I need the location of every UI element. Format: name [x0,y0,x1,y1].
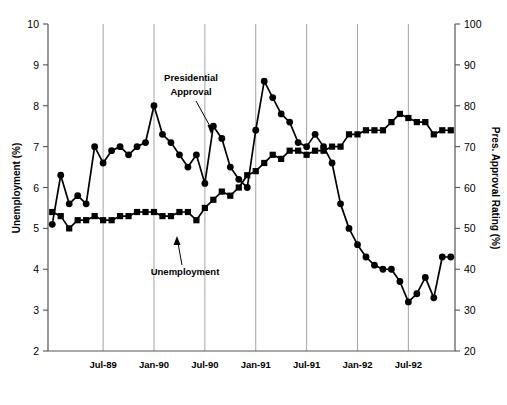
data-point-marker [227,164,234,171]
axis-title-right: Pres. Approval Rating (%) [490,127,501,249]
data-point-marker [363,127,369,133]
data-point-marker [253,168,259,174]
data-point-marker [49,221,56,228]
y2-tick-label: 20 [464,345,476,357]
data-point-marker [270,152,276,158]
data-point-marker [91,143,98,150]
data-point-marker [108,147,115,154]
data-point-marker [193,151,200,158]
x-tick-label: Jan-92 [342,359,372,370]
data-point-marker [371,262,378,269]
data-point-marker [448,127,454,133]
x-tick-label: Jul-90 [191,359,218,370]
data-point-marker [210,197,216,203]
data-point-marker [287,148,293,154]
data-point-marker [269,94,276,101]
annotation-unemployment-label: Unemployment [151,266,220,277]
y2-tick-label: 80 [464,100,476,112]
y2-tick-label: 50 [464,222,476,234]
x-tick-label: Jan-91 [241,359,272,370]
data-point-marker [58,213,64,219]
data-point-marker [57,172,64,179]
data-point-marker [236,184,242,190]
data-point-marker [371,127,377,133]
data-point-marker [380,266,387,273]
y2-tick-label: 40 [464,263,476,275]
data-point-marker [108,217,114,223]
y2-tick-label: 70 [464,141,476,153]
data-point-marker [134,209,140,215]
axis-title-left: Unemployment (%) [11,143,22,234]
data-point-marker [422,274,429,281]
y2-tick-label: 60 [464,182,476,194]
data-point-marker [117,143,124,150]
data-point-marker [354,241,361,248]
x-tick-label: Jan-90 [139,359,169,370]
data-point-marker [134,143,141,150]
data-point-marker [185,164,192,171]
x-axis-ticks: Jul-89Jan-90Jul-90Jan-91Jul-91Jan-92Jul-… [89,359,422,370]
data-point-marker [142,139,149,146]
data-point-marker [92,213,98,219]
data-point-marker [176,209,182,215]
chart-container: 2345678910 2030405060708090100 Jul-89Jan… [0,0,507,405]
y-tick-label: 10 [27,18,39,30]
data-point-marker [66,225,72,231]
data-point-marker [125,213,131,219]
data-point-marker [117,213,123,219]
data-point-marker [75,217,81,223]
data-point-marker [142,209,148,215]
data-point-marker [176,151,183,158]
data-point-marker [312,131,319,138]
data-point-marker [346,131,352,137]
data-point-marker [261,78,268,85]
data-point-marker [431,131,437,137]
data-point-marker [439,127,445,133]
data-point-marker [388,266,395,273]
data-point-marker [295,148,301,154]
data-point-marker [244,184,251,191]
data-point-marker [430,294,437,301]
data-point-marker [414,119,420,125]
data-point-marker [413,290,420,297]
y2-tick-label: 100 [464,18,482,30]
data-point-marker [320,143,327,150]
data-point-marker [337,144,343,150]
data-point-marker [388,119,394,125]
y-axis-ticks-right: 2030405060708090100 [455,18,482,357]
data-point-marker [447,254,454,261]
data-point-marker [396,278,403,285]
data-point-marker [252,127,259,134]
data-point-marker [201,180,208,187]
data-point-marker [303,143,310,150]
data-point-marker [261,160,267,166]
data-point-marker [151,102,158,109]
y2-tick-label: 30 [464,304,476,316]
y-axis-ticks-left: 2345678910 [27,18,48,357]
data-point-marker [286,119,293,126]
data-point-marker [380,127,386,133]
data-point-marker [227,193,233,199]
data-point-marker [405,299,412,306]
left-axis-title-text: Unemployment (%) [11,143,22,234]
data-point-marker [397,111,403,117]
plot-background [48,24,455,351]
annotation-approval-line2: Approval [170,86,211,97]
data-point-marker [329,144,335,150]
data-point-marker [159,131,166,138]
data-point-marker [422,119,428,125]
annotation-approval-line1: Presidential [164,72,218,83]
x-tick-label: Jul-89 [89,359,116,370]
x-tick-label: Jul-91 [293,359,321,370]
data-point-marker [83,200,90,207]
data-point-marker [151,209,157,215]
data-point-marker [168,213,174,219]
data-point-marker [363,254,370,261]
data-point-marker [202,205,208,211]
data-point-marker [439,254,446,261]
data-point-marker [312,148,318,154]
data-point-marker [100,160,107,167]
data-point-marker [168,139,175,146]
chart-figure: 2345678910 2030405060708090100 Jul-89Jan… [0,0,507,405]
data-point-marker [185,209,191,215]
